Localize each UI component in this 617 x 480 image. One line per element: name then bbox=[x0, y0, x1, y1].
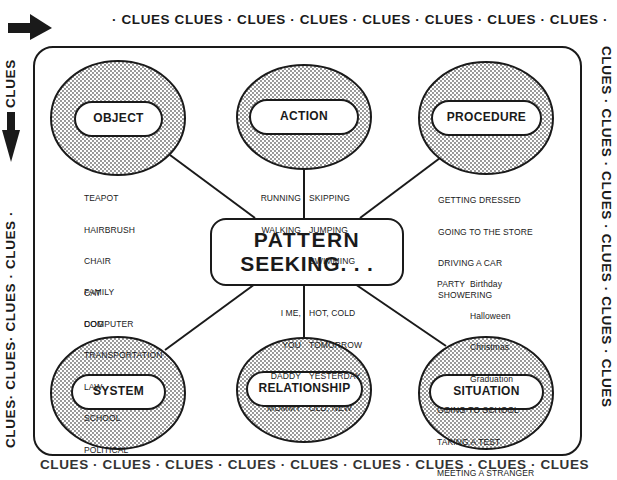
list-item: Graduation bbox=[437, 374, 534, 385]
clues-band-top: · CLUES CLUES · CLUES · CLUES · CLUES · … bbox=[112, 12, 608, 27]
list-item: YESTERDAY bbox=[309, 371, 362, 382]
list-item: HOT, COLD bbox=[309, 308, 362, 319]
list-item: RUNNING bbox=[256, 193, 301, 204]
relationship-examples-left: I ME, YOU DADDY MOMMY bbox=[256, 287, 301, 424]
list-item: GETTING DRESSED bbox=[438, 195, 533, 206]
list-item: MOMMY bbox=[256, 403, 301, 414]
party-row: PARTY Birthday bbox=[437, 279, 534, 290]
list-item: TOMORROW bbox=[309, 340, 362, 351]
list-item: SKIPPING bbox=[309, 193, 355, 204]
action-examples-right: SKIPPING JUMPING SWIMMING bbox=[309, 172, 355, 277]
list-item: OLD, NEW bbox=[309, 403, 362, 414]
list-item: HAIRBRUSH bbox=[84, 225, 135, 236]
list-item: I ME, bbox=[256, 308, 301, 319]
party-label: PARTY bbox=[437, 279, 470, 290]
procedure-label: PROCEDURE bbox=[432, 110, 541, 124]
clues-band-right: CLUES · CLUES · CLUES · CLUES · CLUES · … bbox=[599, 46, 614, 408]
list-item: TAKING A TEST bbox=[437, 437, 534, 448]
action-examples-left: RUNNING WALKING bbox=[256, 172, 301, 246]
list-item: POLITICAL bbox=[84, 445, 162, 456]
list-item: Christmas bbox=[437, 342, 534, 353]
list-item: LAW bbox=[84, 382, 162, 393]
list-item: DADDY bbox=[256, 371, 301, 382]
list-item: MEETING A STRANGER bbox=[437, 468, 534, 479]
list-item: TEAPOT bbox=[84, 193, 135, 204]
list-item: Halloween bbox=[437, 311, 534, 322]
list-item: WALKING bbox=[256, 225, 301, 236]
relationship-examples-right: HOT, COLD TOMORROW YESTERDAY OLD, NEW bbox=[309, 287, 362, 424]
right-arrow-icon bbox=[8, 14, 52, 40]
list-item: GOING TO SCHOOL bbox=[437, 405, 534, 416]
clues-band-left-top: CLUES bbox=[3, 59, 18, 108]
list-item: CHAIR bbox=[84, 256, 135, 267]
list-item: FAMILY bbox=[84, 287, 162, 298]
list-item: GOING TO THE STORE bbox=[438, 227, 533, 238]
list-item: TRANSPORTATION bbox=[84, 350, 162, 361]
list-item: COMPUTER bbox=[84, 319, 162, 330]
pattern-seeking-box: PATTERN SEEKING. . . bbox=[210, 218, 404, 286]
situation-examples: PARTY Birthday Halloween Christmas Gradu… bbox=[437, 258, 534, 480]
system-examples: FAMILY COMPUTER TRANSPORTATION LAW SCHOO… bbox=[84, 266, 162, 466]
clues-band-left: CLUES· CLUES· CLUES · CLUES · bbox=[3, 211, 18, 448]
list-item: SCHOOL bbox=[84, 413, 162, 424]
object-label: OBJECT bbox=[75, 111, 162, 125]
list-item: JUMPING bbox=[309, 225, 355, 236]
list-item: YOU bbox=[256, 340, 301, 351]
down-arrow-icon bbox=[2, 112, 20, 162]
list-item: SWIMMING bbox=[309, 256, 355, 267]
action-label: ACTION bbox=[250, 109, 358, 123]
list-item: Birthday bbox=[470, 279, 502, 290]
